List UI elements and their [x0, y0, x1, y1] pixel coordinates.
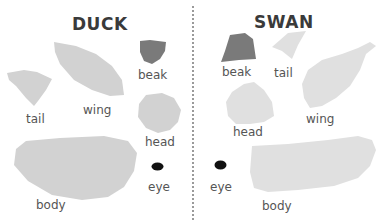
- swan-eye-label: eye: [210, 180, 232, 194]
- divider: [192, 6, 194, 220]
- duck-beak-label: beak: [138, 68, 167, 82]
- swan-body-label: body: [262, 199, 292, 213]
- duck-tail-piece: [6, 70, 54, 108]
- duck-title: DUCK: [72, 14, 128, 34]
- swan-beak-label: beak: [222, 65, 251, 79]
- duck-wing-label: wing: [83, 103, 111, 117]
- swan-head-piece: [226, 82, 276, 126]
- swan-eye-piece: [214, 160, 227, 170]
- swan-wing-piece: [300, 40, 376, 110]
- duck-tail-label: tail: [26, 112, 45, 126]
- duck-eye-label: eye: [148, 180, 170, 194]
- duck-wing-piece: [52, 40, 126, 98]
- duck-beak-piece: [138, 39, 168, 65]
- duck-body-label: body: [36, 198, 66, 212]
- duck-head-piece: [136, 92, 182, 134]
- swan-title: SWAN: [254, 12, 314, 32]
- duck-eye-piece: [151, 162, 164, 171]
- swan-wing-label: wing: [306, 112, 334, 126]
- duck-head-label: head: [145, 135, 175, 149]
- duck-body-piece: [12, 135, 138, 201]
- swan-beak-piece: [221, 33, 257, 63]
- swan-body-piece: [248, 136, 376, 196]
- swan-tail-label: tail: [274, 66, 293, 80]
